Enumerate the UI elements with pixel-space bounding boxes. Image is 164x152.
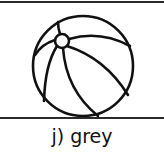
beach-ball-icon	[0, 0, 164, 120]
bottom-rule	[0, 117, 164, 119]
item-label: j) grey	[0, 124, 164, 148]
worksheet-item: j) grey	[0, 0, 164, 152]
